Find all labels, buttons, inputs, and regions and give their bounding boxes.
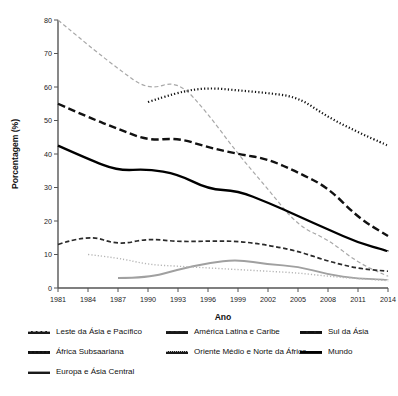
y-tick-label: 30: [44, 183, 52, 192]
legend-label: Mundo: [328, 347, 352, 357]
x-tick-label: 1999: [230, 295, 246, 304]
legend-swatch-icon: [28, 347, 50, 357]
y-tick-label: 40: [44, 150, 52, 159]
y-tick-label: 60: [44, 83, 52, 92]
x-tick-label: 1996: [200, 295, 216, 304]
legend-row: África SubsaarianaOriente Médio e Norte …: [0, 342, 398, 362]
legend-swatch-icon: [300, 327, 322, 337]
legend-item[interactable]: Oriente Médio e Norte da África: [166, 347, 307, 357]
x-axis-title: Ano: [215, 312, 232, 322]
chart-legend: Leste da Ásia e PacíficoAmérica Latina e…: [0, 322, 398, 396]
series-line-leste-da-sia-e-pac-fico: [58, 20, 388, 276]
x-tick-label: 1981: [50, 295, 66, 304]
legend-row: Leste da Ásia e PacíficoAmérica Latina e…: [0, 322, 398, 342]
legend-swatch-icon: [166, 347, 188, 357]
legend-item[interactable]: Europa e Ásia Central: [28, 367, 134, 377]
legend-swatch-icon: [300, 347, 322, 357]
series-line-europa-e-sia-central: [118, 261, 388, 280]
y-tick-label: 0: [48, 284, 52, 293]
x-tick-label: 2008: [320, 295, 336, 304]
legend-label: Oriente Médio e Norte da África: [194, 347, 307, 357]
legend-label: América Latina e Caribe: [194, 327, 280, 337]
y-axis-title: Porcentagem (%): [10, 119, 20, 189]
x-tick-label: 2011: [350, 295, 365, 304]
x-tick-label: 2014: [380, 295, 396, 304]
legend-label: África Subsaariana: [56, 347, 124, 357]
legend-label: Leste da Ásia e Pacífico: [56, 327, 142, 337]
y-tick-label: 80: [44, 16, 52, 25]
series-line-sul-da-sia: [58, 104, 388, 236]
x-tick-label: 2005: [290, 295, 306, 304]
y-tick-label: 50: [44, 116, 52, 125]
x-tick-label: 1993: [170, 295, 186, 304]
legend-item[interactable]: Sul da Ásia: [300, 327, 368, 337]
x-tick-label: 1990: [140, 295, 156, 304]
legend-label: Sul da Ásia: [328, 327, 368, 337]
y-tick-label: 20: [44, 217, 52, 226]
legend-item[interactable]: Mundo: [300, 347, 352, 357]
legend-item[interactable]: América Latina e Caribe: [166, 327, 280, 337]
legend-swatch-icon: [166, 327, 188, 337]
chart-figure: 0102030405060708019811984198719901993199…: [0, 0, 398, 396]
legend-label: Europa e Ásia Central: [56, 367, 134, 377]
legend-swatch-icon: [28, 367, 50, 377]
series-line-frica-subsaariana: [148, 88, 388, 145]
x-tick-label: 2002: [260, 295, 276, 304]
legend-item[interactable]: Leste da Ásia e Pacífico: [28, 327, 142, 337]
legend-swatch-icon: [28, 327, 50, 337]
x-tick-label: 1987: [110, 295, 126, 304]
series-line-am-rica-latina-e-caribe: [58, 238, 388, 271]
y-tick-label: 10: [44, 250, 52, 259]
legend-item[interactable]: África Subsaariana: [28, 347, 124, 357]
legend-row: Europa e Ásia Central: [0, 362, 398, 382]
x-tick-label: 1984: [80, 295, 96, 304]
y-tick-label: 70: [44, 49, 52, 58]
line-chart-plot: 0102030405060708019811984198719901993199…: [0, 0, 398, 322]
